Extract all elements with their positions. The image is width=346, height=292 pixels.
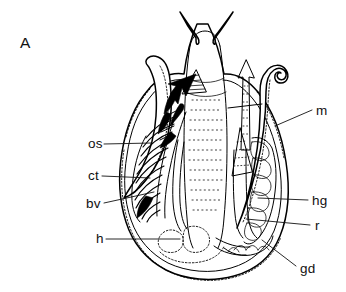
label-hg: hg [312, 193, 328, 208]
label-gd: gd [300, 261, 316, 276]
label-m: m [316, 103, 328, 118]
panel-letter: A [20, 34, 31, 51]
leader-m [275, 110, 312, 126]
label-ct: ct [88, 168, 99, 183]
label-os: os [88, 136, 103, 151]
label-bv: bv [86, 196, 101, 211]
label-r: r [315, 218, 320, 233]
figure-panel-a: A os ct bv h m hg r gd [0, 0, 346, 292]
label-h: h [96, 231, 104, 246]
anatomy-diagram: A os ct bv h m hg r gd [0, 0, 346, 292]
